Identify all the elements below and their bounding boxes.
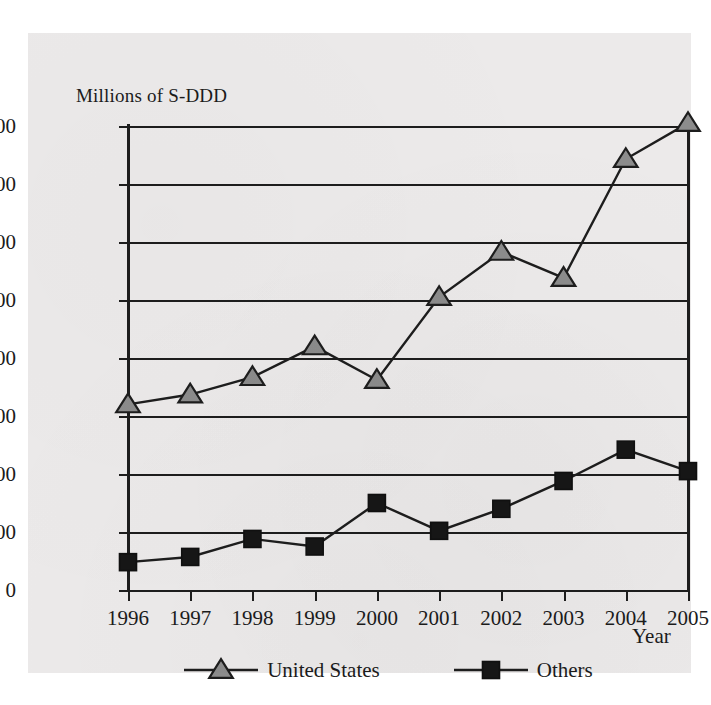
y-tick-label: 100	[0, 520, 16, 545]
data-point-marker	[365, 369, 389, 388]
y-tick-label: 200	[0, 462, 16, 487]
data-point-marker	[120, 554, 137, 571]
x-tick-mark	[315, 590, 317, 601]
y-tick-mark	[119, 300, 128, 302]
data-point-marker	[368, 495, 385, 512]
y-tick-mark	[119, 358, 128, 360]
y-axis-label: Millions of S-DDD	[76, 85, 227, 107]
legend-entry: Others	[452, 655, 593, 685]
plot-area: 0100200300400500600700800 19961997199819…	[128, 126, 688, 590]
legend-label: Others	[537, 658, 593, 683]
gridline	[128, 590, 688, 592]
x-tick-label: 2003	[529, 606, 599, 631]
series-layer	[128, 126, 688, 590]
y-tick-mark	[119, 532, 128, 534]
legend-entry: United States	[182, 655, 380, 685]
series-line	[128, 123, 688, 404]
y-tick-label: 0	[0, 578, 16, 603]
y-tick-mark	[119, 474, 128, 476]
data-point-marker	[303, 336, 327, 355]
y-tick-mark	[119, 416, 128, 418]
y-tick-mark	[119, 590, 128, 592]
y-tick-mark	[119, 242, 128, 244]
data-point-marker	[182, 548, 199, 565]
series-line	[128, 450, 688, 563]
chart-panel: Millions of S-DDD 0100200300400500600700…	[28, 33, 691, 673]
data-point-marker	[552, 267, 576, 286]
data-point-marker	[617, 441, 634, 458]
data-point-marker	[306, 538, 323, 555]
y-tick-label: 500	[0, 288, 16, 313]
x-axis-label: Year	[632, 624, 671, 649]
data-point-marker	[427, 286, 451, 305]
x-tick-mark	[190, 590, 192, 601]
x-tick-mark	[688, 590, 690, 601]
y-tick-label: 700	[0, 172, 16, 197]
y-tick-mark	[119, 126, 128, 128]
x-tick-mark	[564, 590, 566, 601]
data-point-marker	[680, 463, 697, 480]
y-tick-label: 400	[0, 346, 16, 371]
x-tick-label: 1997	[155, 606, 225, 631]
x-tick-label: 1999	[280, 606, 350, 631]
data-point-marker	[555, 472, 572, 489]
x-tick-mark	[501, 590, 503, 601]
data-point-marker	[490, 241, 514, 260]
x-tick-mark	[252, 590, 254, 601]
x-tick-mark	[626, 590, 628, 601]
chart-page: Millions of S-DDD 0100200300400500600700…	[0, 0, 711, 705]
x-tick-label: 1996	[93, 606, 163, 631]
y-tick-mark	[119, 184, 128, 186]
x-tick-label: 1998	[217, 606, 287, 631]
x-tick-label: 2000	[342, 606, 412, 631]
data-point-marker	[676, 112, 700, 131]
y-tick-label: 600	[0, 230, 16, 255]
y-tick-label: 800	[0, 114, 16, 139]
x-tick-mark	[377, 590, 379, 601]
data-point-marker	[244, 530, 261, 547]
x-tick-label: 2002	[466, 606, 536, 631]
data-point-marker	[431, 522, 448, 539]
triangle-marker	[182, 655, 260, 685]
chart-legend: United StatesOthers	[56, 655, 711, 685]
data-point-marker	[614, 148, 638, 167]
x-tick-mark	[128, 590, 130, 601]
x-tick-mark	[439, 590, 441, 601]
x-tick-label: 2001	[404, 606, 474, 631]
y-tick-label: 300	[0, 404, 16, 429]
square-marker	[452, 655, 530, 685]
legend-label: United States	[267, 658, 380, 683]
data-point-marker	[241, 366, 265, 385]
data-point-marker	[493, 500, 510, 517]
